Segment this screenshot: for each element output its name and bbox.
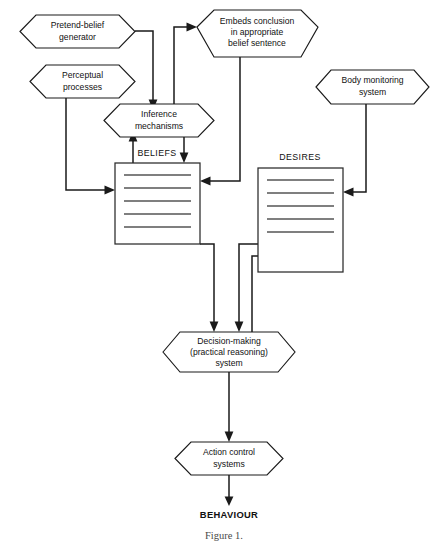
connector-embeds-to-beliefs <box>210 57 240 181</box>
decision-label-line2: (practical reasoning) <box>190 347 268 357</box>
node-body-monitoring-system[interactable]: Body monitoring system <box>316 70 429 104</box>
arrowhead-beliefs-to-decision <box>210 322 219 333</box>
arrowhead-inference-to-embeds <box>187 23 198 32</box>
node-perceptual-processes[interactable]: Perceptual processes <box>30 65 135 98</box>
connector-body-monitoring-to-desires <box>352 104 366 192</box>
inference-label-line2: mechanisms <box>135 121 183 131</box>
connector-perceptual-to-beliefs <box>66 98 105 190</box>
node-embeds-conclusion[interactable]: Embeds conclusion in appropriate belief … <box>197 10 318 57</box>
inference-label-line1: Inference <box>141 109 177 119</box>
decision-label-line3: system <box>215 358 242 368</box>
arrowhead-inference-to-beliefs <box>180 153 189 164</box>
arrowhead-desires-to-decision <box>235 322 244 333</box>
arrowhead-perceptual-to-beliefs <box>105 186 116 195</box>
node-pretend-belief-generator[interactable]: Pretend-belief generator <box>20 15 135 48</box>
embeds-label-line1: Embeds conclusion <box>220 16 295 26</box>
embeds-label-line2: in appropriate <box>231 27 284 37</box>
decision-label-line1: Decision-making <box>197 336 261 346</box>
beliefs-title: BELIEFS <box>138 148 177 158</box>
perceptual-label-line2: processes <box>63 82 102 92</box>
pretend-belief-label-line2: generator <box>59 32 96 42</box>
arrowhead-decision-to-action <box>225 432 234 443</box>
desires-title: DESIRES <box>279 152 320 162</box>
behaviour-label: BEHAVIOUR <box>200 509 258 520</box>
figure-caption: Figure 1. <box>205 530 243 541</box>
arrowhead-body-to-desires <box>343 188 354 197</box>
connector-pretend-belief-to-inference <box>135 31 153 100</box>
node-inference-mechanisms[interactable]: Inference mechanisms <box>104 104 214 137</box>
connector-beliefs-to-decision <box>200 244 214 322</box>
store-beliefs[interactable]: BELIEFS <box>115 148 200 244</box>
pretend-belief-label-line1: Pretend-belief <box>51 20 105 30</box>
node-decision-making-system[interactable]: Decision-making (practical reasoning) sy… <box>163 332 295 372</box>
action-control-label-line1: Action control <box>203 447 255 457</box>
node-action-control-systems[interactable]: Action control systems <box>175 442 283 475</box>
desires-box <box>258 168 343 272</box>
body-monitoring-label-line2: system <box>359 87 386 97</box>
action-control-label-line2: systems <box>213 459 245 469</box>
arrowhead-embeds-to-beliefs <box>200 177 211 186</box>
arrowhead-action-to-behaviour <box>225 497 234 507</box>
embeds-label-line3: belief sentence <box>228 38 286 48</box>
store-desires[interactable]: DESIRES <box>258 152 343 272</box>
connector-inference-to-embeds <box>174 27 187 110</box>
figure-diagram-container: Pretend-belief generator Perceptual proc… <box>0 0 444 546</box>
body-monitoring-label-line1: Body monitoring <box>341 75 403 85</box>
perceptual-label-line1: Perceptual <box>62 70 103 80</box>
flow-diagram: Pretend-belief generator Perceptual proc… <box>0 0 444 546</box>
